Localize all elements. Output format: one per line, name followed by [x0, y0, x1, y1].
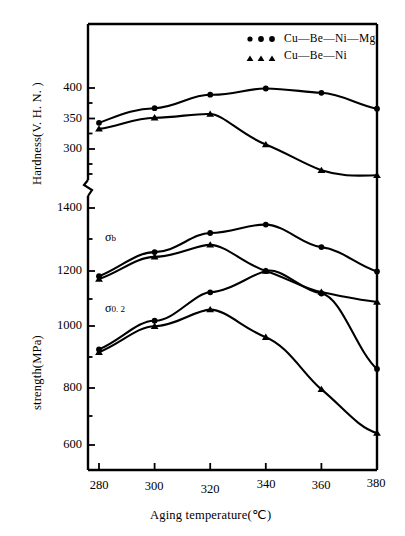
xtick-label-320: 320 [188, 482, 232, 497]
plot-frame [84, 24, 377, 470]
curve-label-sigma-b: σb [105, 230, 116, 245]
figure-canvas: Cu—Be—Ni—Mg Cu—Be—Ni 400 350 300 1400 12… [0, 0, 405, 536]
x-axis-title: Aging temperature(℃) [150, 507, 271, 523]
legend-marker-circle-group [247, 36, 275, 42]
xtick-label-380: 380 [354, 476, 398, 491]
ytick-label-300: 300 [48, 141, 82, 156]
xtick-label-360: 360 [299, 478, 343, 493]
series-sigma02-cubeni-mg [96, 268, 380, 372]
xtick-label-300: 300 [132, 479, 176, 494]
legend-label-cu-be-ni: Cu—Be—Ni [284, 49, 347, 61]
axis-break-symbol [84, 180, 92, 196]
y-axis-title-hardness: Hardness(V. H. N. ) [30, 82, 45, 185]
sigma-02-subscript: 0. 2 [111, 304, 125, 314]
legend-marker-triangle-group [247, 56, 276, 62]
series-hardness-cubeni [95, 110, 381, 178]
ytick-label-400: 400 [48, 80, 82, 95]
ytick-label-1400: 1400 [36, 200, 82, 215]
ytick-label-350: 350 [48, 111, 82, 126]
xtick-label-340: 340 [244, 477, 288, 492]
curve-label-sigma-02: σ0. 2 [105, 301, 125, 316]
ytick-label-1200: 1200 [36, 263, 82, 278]
series-sigmab-cubeni-mg [96, 222, 380, 279]
xtick-label-280: 280 [77, 478, 121, 493]
ytick-label-1000: 1000 [36, 318, 82, 333]
legend-label-cu-be-ni-mg: Cu—Be—Ni—Mg [284, 32, 375, 44]
y-axis-title-strength: strength(MPa) [30, 335, 45, 410]
sigma-b-subscript: b [111, 233, 116, 243]
ytick-label-600: 600 [36, 437, 82, 452]
